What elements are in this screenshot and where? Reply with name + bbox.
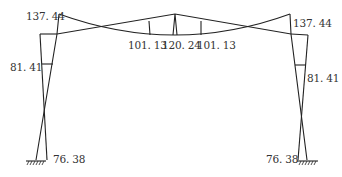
label-beam-right-moment: 101. 13 (197, 40, 236, 51)
label-left-top-moment: 137. 44 (26, 11, 65, 22)
right-column-line-b (290, 14, 307, 160)
label-left-base-moment: 76. 38 (53, 154, 85, 165)
label-beam-center-moment: 120. 24 (162, 40, 201, 51)
label-right-mid-moment: 81. 41 (307, 73, 339, 84)
label-right-base-moment: 76. 38 (266, 154, 298, 165)
fixed-support-right (297, 161, 318, 165)
label-left-mid-moment: 81. 41 (10, 62, 42, 73)
right-column-corner (291, 34, 308, 35)
label-right-top-moment: 137. 44 (293, 18, 332, 29)
label-beam-left-moment: 101. 13 (128, 40, 167, 51)
fixed-support-left (26, 161, 46, 165)
beam-tick-left (149, 21, 150, 35)
beam-tick-center (173, 14, 177, 35)
moment-diagram (0, 0, 342, 177)
left-column-line-b (36, 14, 59, 160)
